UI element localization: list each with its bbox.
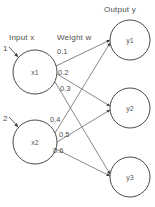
edge-x2-y3 bbox=[56, 149, 110, 176]
diagram-canvas: x1 x2 y1 y2 y3 bbox=[0, 0, 155, 207]
weight-label-x2-y2: 0.5 bbox=[59, 130, 69, 139]
output-node-y1[interactable]: y1 bbox=[110, 20, 150, 60]
node-label-y2: y2 bbox=[126, 105, 134, 113]
neural-network-diagram: x1 x2 y1 y2 y3 Input x Weight w Output y… bbox=[0, 0, 155, 207]
node-label-y1: y1 bbox=[126, 37, 134, 45]
input-index-label-1: 1 bbox=[3, 44, 7, 53]
input-arrow-1 bbox=[9, 47, 18, 57]
weight-label-x2-y1: 0.4 bbox=[50, 115, 60, 124]
input-arrow-2 bbox=[9, 117, 18, 127]
weight-label-x2-y3: 0.6 bbox=[53, 146, 63, 155]
input-node-x2[interactable]: x2 bbox=[13, 120, 57, 164]
node-label-y3: y3 bbox=[126, 174, 134, 182]
input-index-label-2: 2 bbox=[3, 114, 7, 123]
edge-group bbox=[55, 40, 110, 176]
node-label-x2: x2 bbox=[31, 139, 39, 146]
node-label-x1: x1 bbox=[31, 69, 39, 76]
weight-label-x1-y1: 0.1 bbox=[57, 47, 67, 56]
edge-x1-y3 bbox=[55, 82, 110, 174]
output-node-y3[interactable]: y3 bbox=[110, 157, 150, 197]
output-section-label: Output y bbox=[104, 5, 136, 14]
weight-section-label: Weight w bbox=[57, 33, 91, 42]
weight-label-x1-y3: 0.3 bbox=[60, 84, 70, 93]
input-node-x1[interactable]: x1 bbox=[13, 50, 57, 94]
input-section-label: Input x bbox=[9, 33, 34, 42]
weight-label-x1-y2: 0.2 bbox=[58, 68, 68, 77]
output-node-y2[interactable]: y2 bbox=[110, 88, 150, 128]
